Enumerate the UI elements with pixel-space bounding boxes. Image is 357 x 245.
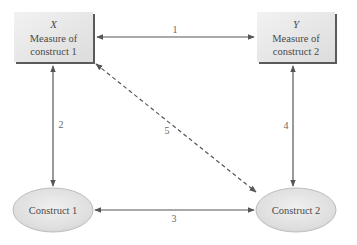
construct-2-label: Construct 2 bbox=[272, 205, 321, 216]
edge-label-5: 5 bbox=[165, 125, 170, 136]
measure-x-line1: Measure of bbox=[30, 33, 78, 44]
arrow-5-x-to-construct2-dashed bbox=[96, 64, 256, 192]
construct-validity-diagram: X Measure of construct 1 Y Measure of co… bbox=[0, 0, 357, 245]
measure-y-line1: Measure of bbox=[272, 33, 320, 44]
construct-2-ellipse: Construct 2 bbox=[256, 188, 336, 232]
construct-1-ellipse: Construct 1 bbox=[13, 188, 93, 232]
measure-x-line2: construct 1 bbox=[30, 46, 76, 57]
measure-x-box: X Measure of construct 1 bbox=[14, 12, 95, 64]
measure-y-box: Y Measure of construct 2 bbox=[257, 12, 337, 64]
edge-label-4: 4 bbox=[284, 120, 289, 131]
measure-y-line2: construct 2 bbox=[273, 46, 319, 57]
construct-1-label: Construct 1 bbox=[29, 205, 78, 216]
edge-label-3: 3 bbox=[172, 213, 177, 224]
variable-x-label: X bbox=[49, 18, 58, 30]
edge-label-1: 1 bbox=[173, 24, 178, 35]
edge-label-2: 2 bbox=[59, 119, 64, 130]
